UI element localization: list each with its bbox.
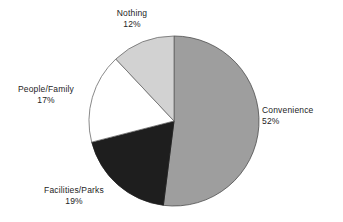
slice-label-convenience-name: Convenience bbox=[262, 105, 338, 116]
slice-label-nothing-name: Nothing bbox=[92, 8, 172, 19]
pie-slice-group bbox=[89, 36, 259, 206]
pie-slice-convenience bbox=[163, 36, 259, 206]
slice-label-convenience: Convenience 52% bbox=[262, 105, 338, 128]
slice-label-people-family: People/Family 17% bbox=[4, 84, 88, 107]
slice-label-nothing: Nothing 12% bbox=[92, 8, 172, 31]
slice-label-nothing-value: 12% bbox=[92, 19, 172, 30]
slice-label-people-family-value: 17% bbox=[4, 95, 88, 106]
slice-label-convenience-value: 52% bbox=[262, 116, 338, 127]
slice-label-facilities-parks: Facilities/Parks 19% bbox=[22, 185, 126, 208]
slice-label-facilities-parks-value: 19% bbox=[22, 196, 126, 207]
slice-label-people-family-name: People/Family bbox=[4, 84, 88, 95]
slice-label-facilities-parks-name: Facilities/Parks bbox=[22, 185, 126, 196]
pie-chart: Nothing 12% Convenience 52% People/Famil… bbox=[0, 0, 343, 222]
